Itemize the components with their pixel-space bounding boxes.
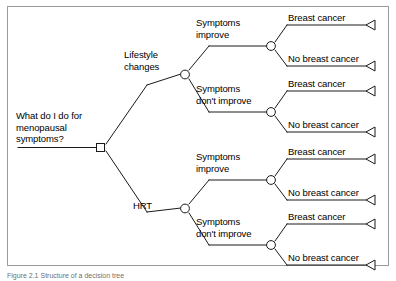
outcome-label-hrt-improve: Symptoms improve [196, 151, 264, 174]
outcome-label-hrt-noimprove: Symptoms don't improve [196, 216, 270, 239]
terminal-label-5: Breast cancer [288, 146, 345, 158]
figure-caption: Figure 2.1 Structure of a decision tree [7, 272, 389, 281]
terminal-label-6: No breast cancer [288, 187, 359, 199]
root-question-label: What do I do for menopausal symptoms? [16, 110, 102, 145]
terminal-label-3: Breast cancer [288, 78, 345, 90]
outcome-label-lifestyle-noimprove: Symptoms don't improve [196, 83, 270, 106]
outcome-label-lifestyle-improve: Symptoms improve [196, 17, 264, 40]
terminal-label-1: Breast cancer [288, 12, 345, 24]
terminal-label-2: No breast cancer [288, 53, 359, 65]
branch-label-lifestyle: Lifestyle changes [124, 49, 182, 72]
decision-tree-figure: What do I do for menopausal symptoms? Li… [0, 0, 396, 281]
terminal-label-8: No breast cancer [288, 252, 359, 264]
terminal-label-7: Breast cancer [288, 211, 345, 223]
branch-label-hrt: HRT [133, 200, 183, 212]
terminal-label-4: No breast cancer [288, 119, 359, 131]
